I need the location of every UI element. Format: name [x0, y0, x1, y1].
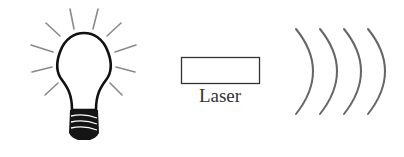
diagram-canvas [0, 0, 404, 157]
light-bulb-icon [57, 33, 111, 140]
laser-label: Laser [181, 85, 259, 107]
laser-box [182, 58, 260, 84]
wavefront-arcs-icon [296, 29, 385, 114]
